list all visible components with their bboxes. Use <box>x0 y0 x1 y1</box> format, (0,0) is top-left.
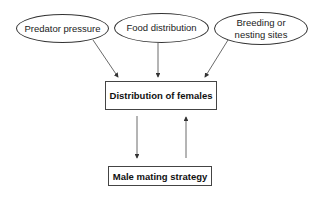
factor-label: Food distribution <box>126 22 196 34</box>
factor-label-line-2: nesting sites <box>235 29 288 41</box>
arrow-predator-to-females <box>93 40 118 77</box>
box-label: Male mating strategy <box>113 171 208 182</box>
male-mating-strategy-box: Male mating strategy <box>108 166 212 186</box>
factor-predator-pressure: Predator pressure <box>16 14 109 43</box>
box-label: Distribution of females <box>110 90 213 101</box>
factor-breeding-sites: Breeding or nesting sites <box>214 12 308 45</box>
arrow-breeding-to-females <box>205 40 228 77</box>
distribution-of-females-box: Distribution of females <box>105 81 217 110</box>
factor-label: Predator pressure <box>24 23 100 35</box>
factor-food-distribution: Food distribution <box>114 13 209 43</box>
factor-label-line-1: Breeding or <box>236 17 285 29</box>
